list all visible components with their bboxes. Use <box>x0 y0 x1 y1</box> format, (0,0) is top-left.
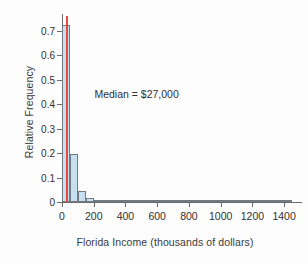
x-tick-mark <box>221 202 222 207</box>
median-annotation: Median = $27,000 <box>94 88 178 100</box>
histogram-bar <box>244 200 252 202</box>
x-tick-mark <box>252 202 253 207</box>
histogram-bar <box>181 200 189 202</box>
y-tick-label: 0.7 <box>41 25 55 36</box>
x-tick-mark <box>157 202 158 207</box>
histogram-bar <box>197 200 205 202</box>
x-tick-label: 800 <box>180 210 198 222</box>
y-tick-label: 0.2 <box>41 148 55 159</box>
histogram-bar <box>78 191 86 203</box>
x-tick-label: 1200 <box>241 210 264 222</box>
x-tick-label: 0 <box>59 210 65 222</box>
histogram-bar <box>252 200 260 202</box>
histogram-chart: Relative Frequency Florida Income (thous… <box>0 0 308 264</box>
histogram-bar <box>102 200 110 202</box>
x-tick-label: 400 <box>117 210 135 222</box>
histogram-bar <box>133 200 141 202</box>
histogram-bar <box>221 200 229 202</box>
histogram-bar <box>173 200 181 202</box>
histogram-bar <box>110 200 118 202</box>
y-tick-label: 0.5 <box>41 74 55 85</box>
median-line <box>66 16 67 202</box>
x-tick-mark <box>189 202 190 207</box>
x-axis-title: Florida Income (thousands of dollars) <box>40 236 290 248</box>
histogram-bar <box>165 200 173 202</box>
x-tick-label: 600 <box>148 210 166 222</box>
histogram-bar <box>213 200 221 202</box>
x-tick-label: 1400 <box>272 210 295 222</box>
x-tick-label: 200 <box>85 210 103 222</box>
histogram-bar <box>141 200 149 202</box>
histogram-bar <box>189 200 197 202</box>
histogram-bar <box>276 200 284 202</box>
histogram-bar <box>86 198 94 202</box>
histogram-bar <box>125 200 133 202</box>
x-tick-mark <box>94 202 95 207</box>
histogram-bar <box>260 200 268 202</box>
y-tick-label: 0 <box>49 197 55 208</box>
histogram-bar <box>237 200 245 202</box>
y-tick-label: 0.3 <box>41 123 55 134</box>
histogram-bar <box>205 200 213 202</box>
histogram-bar <box>70 154 78 202</box>
y-tick-label: 0.4 <box>41 99 55 110</box>
x-tick-mark <box>284 202 285 207</box>
x-tick-mark <box>62 202 63 207</box>
x-tick-mark <box>125 202 126 207</box>
histogram-bar <box>284 200 292 202</box>
histogram-bar <box>118 200 126 202</box>
x-tick-label: 1000 <box>209 210 232 222</box>
histogram-bar <box>157 200 165 202</box>
y-axis-title: Relative Frequency <box>23 32 35 192</box>
histogram-bar <box>229 200 237 202</box>
histogram-bar <box>149 200 157 202</box>
y-tick-label: 0.1 <box>41 172 55 183</box>
x-axis-line <box>62 202 302 203</box>
histogram-bar <box>94 200 102 202</box>
histogram-bar <box>268 200 276 202</box>
plot-area: 00.10.20.30.40.50.60.7 02004006008001000… <box>62 16 300 202</box>
y-tick-label: 0.6 <box>41 50 55 61</box>
